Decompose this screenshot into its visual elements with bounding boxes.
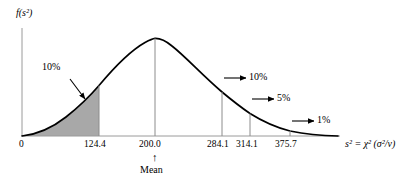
tick-label-375-7: 375.7 — [275, 140, 297, 150]
tick-label-284-1: 284.1 — [207, 140, 229, 150]
mean-arrow-icon: ↑ — [152, 152, 158, 163]
lower-tail-10-label: 10% — [42, 62, 60, 72]
lower-tail-10-arrow — [70, 79, 85, 99]
upper-tail-10-label: 10% — [249, 72, 267, 82]
tick-label-200-0: 200.0 — [139, 140, 161, 150]
mean-label: Mean — [140, 165, 163, 175]
upper-tail-1-label: 1% — [317, 115, 330, 125]
x-axis-label: s² = χ² (σ²/ν) — [345, 139, 395, 149]
tick-label-124-4: 124.4 — [84, 140, 106, 150]
shaded-lower-tail-region — [22, 86, 99, 137]
tick-label-314-1: 314.1 — [236, 140, 258, 150]
y-axis-label: f(s²) — [16, 8, 32, 18]
tick-label-0: 0 — [19, 140, 24, 150]
upper-tail-5-label: 5% — [277, 93, 290, 103]
distribution-plot — [0, 0, 415, 184]
chi-square-distribution-figure: f(s²) s² = χ² (σ²/ν) 0 124.4 200.0 284.1… — [0, 0, 415, 184]
